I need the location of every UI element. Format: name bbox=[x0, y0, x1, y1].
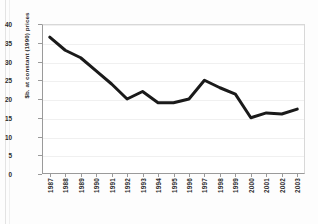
y-axis-tick-label: 25 bbox=[0, 77, 12, 84]
x-axis-tick-label: 1994 bbox=[155, 178, 162, 193]
x-axis-tick-mark bbox=[81, 174, 82, 177]
x-axis-tick-label: 1990 bbox=[93, 178, 100, 193]
x-axis-tick-mark bbox=[158, 174, 159, 177]
x-axis-tick-label: 1997 bbox=[201, 178, 208, 193]
y-axis-title: $b. at constant (1990) prices bbox=[23, 0, 30, 116]
y-axis-tick-label: 35 bbox=[0, 39, 12, 46]
x-axis-tick-label: 1987 bbox=[47, 178, 54, 193]
x-axis-tick-mark bbox=[297, 174, 298, 177]
x-axis-tick-label: 1996 bbox=[186, 178, 193, 193]
x-axis-tick-mark bbox=[96, 174, 97, 177]
x-axis-tick-label: 2001 bbox=[263, 178, 270, 193]
x-axis-tick-label: 1998 bbox=[217, 178, 224, 193]
y-axis-tick-label: 15 bbox=[0, 114, 12, 121]
line-chart: $b. at constant (1990) prices 0510152025… bbox=[0, 0, 318, 224]
y-axis-tick-label: 40 bbox=[0, 21, 12, 28]
data-series-line bbox=[42, 24, 305, 174]
y-axis-tick-label: 30 bbox=[0, 58, 12, 65]
x-axis-tick-mark bbox=[204, 174, 205, 177]
x-axis-tick-mark bbox=[251, 174, 252, 177]
x-axis-tick-label: 1999 bbox=[232, 178, 239, 193]
x-axis-tick-label: 1993 bbox=[140, 178, 147, 193]
x-axis-tick-mark bbox=[282, 174, 283, 177]
x-axis-tick-label: 2000 bbox=[248, 178, 255, 193]
x-axis-tick-mark bbox=[235, 174, 236, 177]
x-axis-tick-mark bbox=[50, 174, 51, 177]
y-axis-tick-label: 0 bbox=[0, 171, 12, 178]
y-axis-tick-label: 5 bbox=[0, 152, 12, 159]
y-axis-tick-label: 20 bbox=[0, 96, 12, 103]
x-axis-tick-mark bbox=[143, 174, 144, 177]
x-axis-tick-mark bbox=[220, 174, 221, 177]
x-axis-tick-label: 1988 bbox=[62, 178, 69, 193]
x-axis-tick-label: 1989 bbox=[78, 178, 85, 193]
y-axis-tick-mark bbox=[38, 174, 42, 175]
x-axis-tick-mark bbox=[189, 174, 190, 177]
x-axis-tick-mark bbox=[174, 174, 175, 177]
x-axis-tick-label: 1991 bbox=[109, 178, 116, 193]
series-polyline bbox=[50, 37, 298, 118]
y-axis-tick-label: 10 bbox=[0, 133, 12, 140]
x-axis-tick-mark bbox=[127, 174, 128, 177]
x-axis-tick-mark bbox=[112, 174, 113, 177]
x-axis-tick-label: 2003 bbox=[294, 178, 301, 193]
x-axis-tick-label: 2002 bbox=[279, 178, 286, 193]
document-page: $b. at constant (1990) prices 0510152025… bbox=[0, 0, 318, 224]
x-axis-tick-mark bbox=[65, 174, 66, 177]
x-axis-tick-label: 1992 bbox=[124, 178, 131, 193]
x-axis-tick-mark bbox=[266, 174, 267, 177]
x-axis-tick-label: 1995 bbox=[171, 178, 178, 193]
